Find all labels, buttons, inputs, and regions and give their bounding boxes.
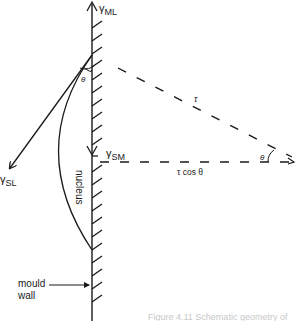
gamma-sl-label: γSL — [0, 173, 17, 188]
wall-label: wall — [17, 290, 35, 301]
gamma-sl-arrow — [10, 55, 92, 168]
tau-label: τ — [194, 94, 198, 104]
gamma-ml-label: γML — [99, 2, 117, 17]
theta-arc-right — [268, 150, 274, 162]
gamma-sm-label: γSM — [106, 147, 125, 162]
nucleation-geometry-diagram: γML θ τ γSM θ τ cos θ γSL nucleus mould … — [0, 0, 298, 321]
tau-cos-theta-label: τ cos θ — [177, 167, 203, 177]
figure-caption: Figure 4.11 Schematic geometry of — [148, 312, 288, 321]
nucleus-outline — [59, 55, 93, 250]
mould-label: mould — [18, 278, 45, 289]
nucleus-label: nucleus — [74, 170, 85, 204]
theta-right-label: θ — [260, 153, 265, 162]
theta-top-label: θ — [81, 75, 86, 84]
tau-dashed-line — [118, 68, 292, 157]
